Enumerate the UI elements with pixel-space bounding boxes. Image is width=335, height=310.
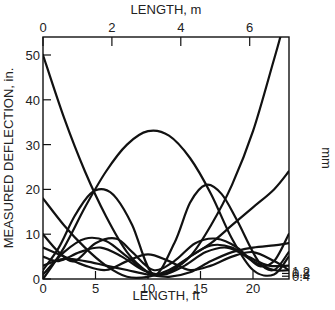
x2-tick-label: 0 (39, 20, 46, 35)
x2-axis-title: LENGTH, m (131, 2, 202, 17)
y-tick-label: 40 (26, 93, 40, 108)
x2-tick-label: 6 (246, 20, 253, 35)
x-tick-label: 20 (246, 281, 260, 296)
y-tick-label: 50 (26, 48, 40, 63)
x-tick-label: 0 (39, 281, 46, 296)
deflection-curve-1 (43, 37, 280, 275)
y2-tick-label: 1.2 (292, 264, 310, 279)
y-tick-label: 30 (26, 138, 40, 153)
y-tick-label: 10 (26, 227, 40, 242)
y-axis-title: MEASURED DEFLECTION, in. (1, 68, 16, 249)
x2-tick-label: 2 (108, 20, 115, 35)
deflection-chart: 051015200246010203040500.40.81.2 LENGTH,… (0, 0, 335, 310)
x2-tick-label: 4 (177, 20, 184, 35)
curve-group (43, 37, 289, 279)
y-tick-label: 20 (26, 182, 40, 197)
y2-axis-title: mm (319, 147, 334, 169)
y-tick-label: 0 (33, 272, 40, 287)
x-tick-label: 5 (92, 281, 99, 296)
x-axis-title: LENGTH, ft (132, 288, 200, 303)
